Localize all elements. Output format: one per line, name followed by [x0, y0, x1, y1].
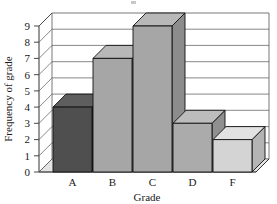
ytick-depth-4: [39, 94, 52, 107]
ytick-label-7: 7: [25, 52, 31, 64]
y-axis-tick-labels: 0 1 2 3 4 5 6 7 8 9: [25, 20, 31, 178]
ytick-label-9: 9: [25, 20, 31, 32]
bar-A-front: [53, 107, 92, 172]
x-axis-category-labels: A B C D F: [69, 176, 236, 188]
chart-canvas: 0 1 2 3 4 5 6 7 8 9: [0, 0, 277, 204]
ytick-depth-1: [39, 143, 52, 156]
y-axis-title: Frequency of grade: [2, 56, 14, 142]
ytick-label-4: 4: [25, 101, 31, 113]
grade-frequency-bar-chart: 0 1 2 3 4 5 6 7 8 9: [0, 0, 277, 204]
ytick-depth-3: [39, 110, 52, 123]
ytick-label-8: 8: [25, 36, 31, 48]
cat-label-C: C: [149, 176, 156, 188]
cropped-title-remnant: [131, 1, 136, 4]
bar-C-front: [133, 26, 172, 172]
cat-label-D: D: [189, 176, 197, 188]
ytick-depth-2: [39, 127, 52, 140]
ytick-label-2: 2: [25, 133, 31, 145]
ytick-label-0: 0: [25, 166, 31, 178]
ytick-depth-5: [39, 78, 52, 91]
ytick-label-6: 6: [25, 69, 31, 81]
bar-B-front: [93, 58, 132, 172]
x-axis-title: Grade: [134, 191, 161, 203]
ytick-depth-9: [39, 13, 52, 26]
ytick-label-1: 1: [25, 150, 31, 162]
ytick-depth-7: [39, 45, 52, 58]
bar-group-F: [213, 127, 265, 172]
ytick-depth-8: [39, 29, 52, 42]
y-axis-ticks: [34, 13, 52, 172]
cat-label-F: F: [229, 176, 235, 188]
bar-D-front: [173, 123, 212, 172]
ytick-depth-6: [39, 62, 52, 75]
ytick-label-3: 3: [25, 117, 31, 129]
bar-F-front: [213, 140, 252, 172]
cat-label-B: B: [109, 176, 116, 188]
cat-label-A: A: [69, 176, 77, 188]
ytick-label-5: 5: [25, 85, 31, 97]
